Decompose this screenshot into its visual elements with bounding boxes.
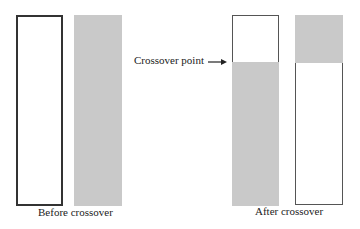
after-bar-child-2 [295, 15, 343, 205]
child-1-gray-segment [232, 62, 279, 206]
crossover-point-label: Crossover point [134, 54, 204, 66]
child-2-white-segment [295, 63, 343, 205]
child-1-white-segment [232, 15, 279, 63]
right-arrow-icon [208, 58, 228, 66]
after-bar-child-1 [232, 15, 279, 206]
child-2-gray-segment [295, 15, 343, 63]
after-crossover-caption: After crossover [255, 205, 323, 217]
before-bar-gray [74, 15, 122, 206]
before-crossover-caption: Before crossover [38, 206, 113, 218]
before-bar-white [16, 15, 63, 206]
